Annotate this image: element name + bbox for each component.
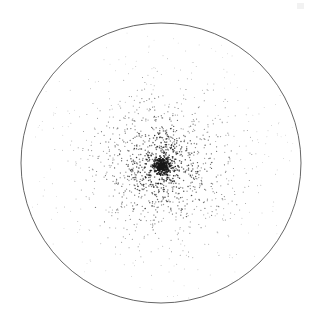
scatter-figure [0,0,314,327]
cluster-scatter-canvas [0,0,314,327]
corner-artifact [297,3,304,9]
